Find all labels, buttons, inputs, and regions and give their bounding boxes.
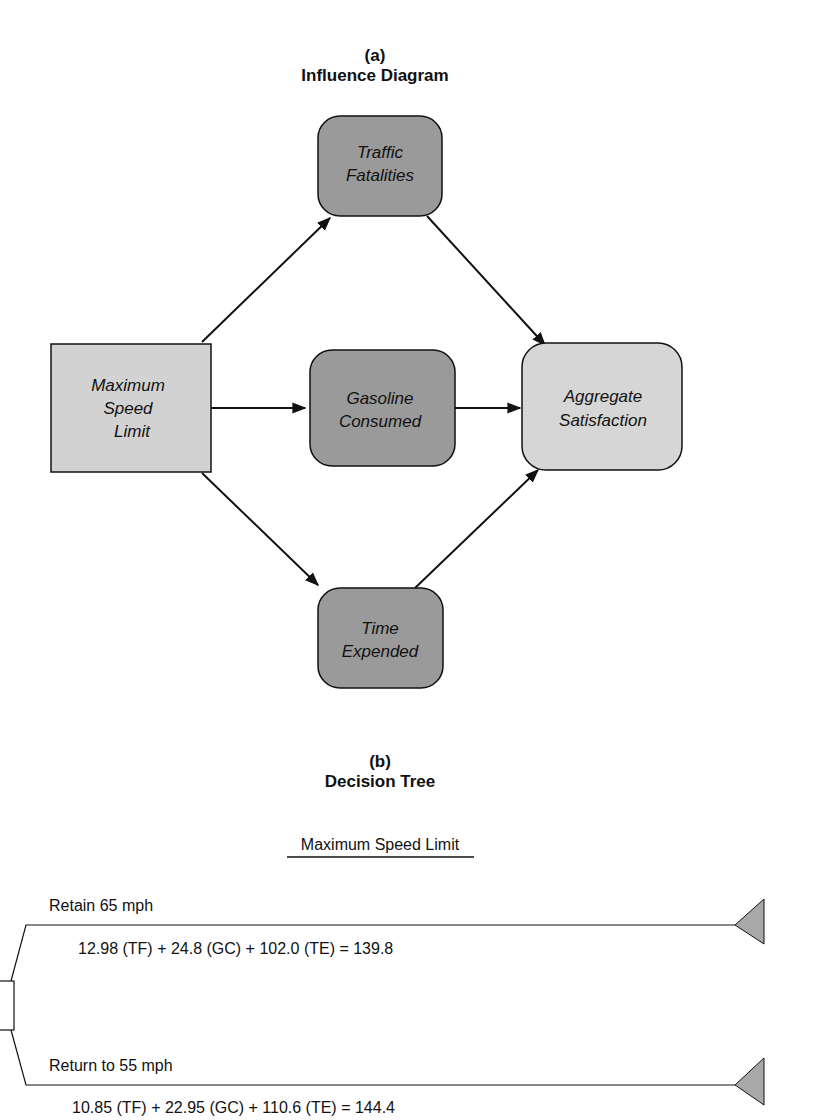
branch-retain-65: Retain 65 mph 12.98 (TF) + 24.8 (GC) + 1…	[11, 897, 764, 981]
node-text-line: Aggregate	[563, 387, 642, 406]
node-text-line: Speed	[103, 399, 153, 418]
node-text-line: Traffic	[357, 143, 403, 162]
node-text-line: Fatalities	[346, 166, 415, 185]
edge-speed-to-time	[202, 473, 318, 585]
node-text-line: Expended	[342, 642, 419, 661]
decision-square-node	[0, 981, 14, 1030]
terminal-triangle-icon	[735, 1058, 764, 1105]
node-text-line: Maximum	[91, 376, 165, 395]
figure-canvas: (a) Influence Diagram Maximum Speed Limi…	[0, 0, 814, 1120]
node-text-line: Satisfaction	[559, 411, 647, 430]
node-text-line: Gasoline	[346, 389, 413, 408]
node-traffic-fatalities: Traffic Fatalities	[318, 116, 442, 216]
node-time-expended: Time Expended	[318, 588, 443, 688]
branch-label: Retain 65 mph	[49, 897, 153, 914]
node-aggregate-satisfaction: Aggregate Satisfaction	[522, 343, 682, 470]
node-text-line: Time	[361, 619, 399, 638]
branch-label: Return to 55 mph	[49, 1057, 173, 1074]
edge-traffic-to-aggregate	[427, 216, 545, 345]
node-maximum-speed-limit: Maximum Speed Limit	[51, 344, 211, 472]
edge-time-to-aggregate	[415, 470, 538, 588]
branch-return-55: Return to 55 mph 10.85 (TF) + 22.95 (GC)…	[11, 1030, 764, 1116]
influence-diagram-title: Influence Diagram	[301, 66, 448, 85]
branch-formula: 12.98 (TF) + 24.8 (GC) + 102.0 (TE) = 13…	[78, 940, 393, 957]
node-gasoline-consumed: Gasoline Consumed	[310, 350, 455, 466]
decision-node-label: Maximum Speed Limit	[301, 836, 460, 853]
decision-tree-title: Decision Tree	[325, 772, 436, 791]
section-b-label: (b)	[369, 752, 391, 771]
branch-formula: 10.85 (TF) + 22.95 (GC) + 110.6 (TE) = 1…	[72, 1099, 395, 1116]
edge-speed-to-traffic	[202, 218, 330, 342]
terminal-triangle-icon	[735, 899, 764, 944]
node-text-line: Limit	[114, 422, 151, 441]
section-a-label: (a)	[365, 46, 386, 65]
node-text-line: Consumed	[339, 412, 422, 431]
